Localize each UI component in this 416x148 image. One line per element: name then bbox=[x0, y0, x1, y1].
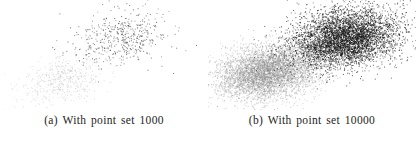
figure-container: (a) With point set 1000 (b) With point s… bbox=[0, 0, 416, 148]
scatter-plot-b bbox=[208, 0, 416, 110]
scatter-plot-a bbox=[0, 0, 208, 110]
captions-row: (a) With point set 1000 (b) With point s… bbox=[0, 110, 416, 148]
panel-a-plot bbox=[0, 0, 208, 110]
caption-cell-a: (a) With point set 1000 bbox=[0, 110, 208, 148]
panel-b-plot bbox=[208, 0, 416, 110]
panels-row bbox=[0, 0, 416, 110]
panel-b-caption: (b) With point set 10000 bbox=[208, 114, 416, 126]
panel-a-caption: (a) With point set 1000 bbox=[0, 114, 208, 126]
caption-cell-b: (b) With point set 10000 bbox=[208, 110, 416, 148]
